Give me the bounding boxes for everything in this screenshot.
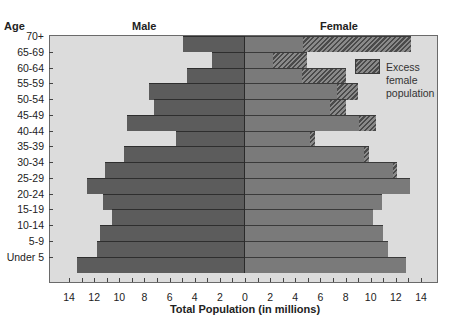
y-tick [49,99,53,100]
x-tick-label: 4 [185,291,205,303]
female-bar [245,99,330,115]
age-label: Under 5 [0,251,44,263]
x-tick-label: 8 [336,291,356,303]
male-bar [154,99,245,115]
male-bar [127,115,245,131]
x-tick [107,278,108,282]
x-tick-label: 0 [235,291,255,303]
x-tick [119,278,120,282]
x-tick [333,278,334,282]
excess-female-bar [393,162,397,178]
male-bar [187,68,245,84]
y-tick [49,194,53,195]
female-bar [245,146,364,162]
male-bar [149,83,245,99]
x-tick-label: 6 [310,291,330,303]
y-tick [49,162,53,163]
age-label: 5-9 [0,235,44,247]
x-tick [396,278,397,282]
male-bar [77,257,245,273]
x-tick [132,278,133,282]
x-tick-label: 14 [59,291,79,303]
x-tick-label: 4 [285,291,305,303]
x-tick [157,278,158,282]
x-tick [283,278,284,282]
x-tick-label: 8 [134,291,154,303]
x-tick [346,278,347,282]
female-bar [245,209,373,225]
male-bar [112,209,245,225]
x-tick [371,278,372,282]
y-tick [49,131,53,132]
age-label: 20-24 [0,188,44,200]
female-bar [245,52,273,68]
y-tick [49,83,53,84]
x-tick [144,278,145,282]
x-axis-title: Total Population (in millions) [0,303,450,315]
x-tick [258,278,259,282]
female-bar [245,36,303,52]
x-tick [320,278,321,282]
excess-female-bar [330,99,345,115]
y-tick [49,225,53,226]
male-bar [100,225,245,241]
age-label: 35-39 [0,140,44,152]
x-tick [195,278,196,282]
age-label: 55-59 [0,77,44,89]
age-label: 10-14 [0,219,44,231]
x-tick [182,278,183,282]
x-tick [245,278,246,282]
x-tick [232,278,233,282]
male-bar [124,146,245,162]
age-label: 15-19 [0,203,44,215]
y-tick [49,146,53,147]
legend-label-line-2: female [386,74,418,86]
excess-female-bar [303,36,411,52]
y-tick [49,257,53,258]
female-bar [245,257,406,273]
age-label: 50-54 [0,93,44,105]
x-tick-label: 6 [160,291,180,303]
age-label: 40-44 [0,125,44,137]
male-bar [87,178,245,194]
male-bar [103,194,245,210]
female-bar [245,115,359,131]
female-bar [245,68,302,84]
age-label: 65-69 [0,46,44,58]
x-tick [69,278,70,282]
x-tick [358,278,359,282]
female-bar [245,241,388,257]
x-tick [295,278,296,282]
male-bar [212,52,245,68]
female-bar [245,162,393,178]
y-tick [49,52,53,53]
female-bar [245,225,383,241]
x-tick [308,278,309,282]
x-tick [170,278,171,282]
legend-label-line-1: Excess [386,61,420,73]
male-bar [97,241,245,257]
female-bar [245,83,337,99]
x-tick-label: 10 [109,291,129,303]
male-header: Male [132,20,156,32]
y-tick [49,241,53,242]
x-tick-label: 12 [84,291,104,303]
age-label: 70+ [0,30,44,42]
y-tick [49,115,53,116]
female-bar [245,131,310,147]
x-tick [94,278,95,282]
x-tick [383,278,384,282]
excess-female-bar [302,68,346,84]
x-tick [82,278,83,282]
legend-label-line-3: population [386,87,434,99]
x-tick [207,278,208,282]
age-label: 25-29 [0,172,44,184]
excess-female-bar [273,52,307,68]
excess-female-bar [337,83,358,99]
x-tick-label: 2 [260,291,280,303]
female-bar [245,194,382,210]
x-tick [421,278,422,282]
x-tick-label: 12 [386,291,406,303]
y-tick [49,209,53,210]
age-label: 45-49 [0,109,44,121]
